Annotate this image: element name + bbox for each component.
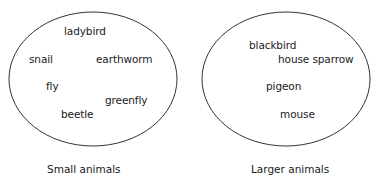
animal-label: pigeon xyxy=(266,80,301,92)
animal-label: snail xyxy=(29,53,53,65)
animal-label: greenfly xyxy=(105,94,147,106)
animal-label: beetle xyxy=(61,108,93,120)
animal-label: mouse xyxy=(280,108,315,120)
animal-label: fly xyxy=(46,80,59,92)
animal-label: blackbird xyxy=(249,39,296,51)
animal-label: earthworm xyxy=(96,53,152,65)
animal-label: house sparrow xyxy=(278,53,354,65)
diagram-ellipses xyxy=(0,0,379,188)
larger-animals-caption: Larger animals xyxy=(251,163,329,175)
animal-label: ladybird xyxy=(64,25,106,37)
small-animals-caption: Small animals xyxy=(47,163,121,175)
larger-animals-ellipse xyxy=(202,12,370,146)
